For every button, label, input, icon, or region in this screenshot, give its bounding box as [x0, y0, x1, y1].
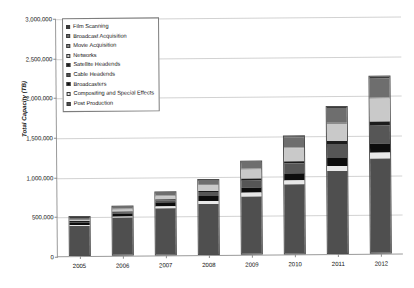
x-axis-tick-label: 2009: [245, 262, 258, 268]
legend-item-label: Post Production: [74, 100, 114, 106]
legend-item-label: Networks: [73, 53, 96, 59]
bar-segment[interactable]: [370, 125, 390, 143]
y-axis-tick-label: 2,500,000: [26, 56, 53, 62]
bar-column[interactable]: 2008: [194, 18, 222, 255]
x-axis-tick-mark: [252, 255, 253, 258]
bar-segment[interactable]: [285, 185, 306, 254]
bar-segment[interactable]: [370, 144, 390, 154]
x-axis-tick-mark: [79, 256, 80, 259]
bar-segment[interactable]: [370, 78, 390, 97]
bar-segment[interactable]: [371, 158, 392, 252]
y-axis-tick-mark: [55, 257, 58, 258]
bar-segment[interactable]: [370, 99, 390, 122]
legend-item-label: Satellite Headends: [73, 62, 120, 68]
y-axis-tick-label: 500,000: [32, 215, 54, 221]
stacked-bar[interactable]: [111, 205, 133, 255]
legend-swatch-icon: [66, 25, 70, 29]
x-axis-tick-mark: [209, 255, 210, 258]
legend-item[interactable]: Post Production: [67, 98, 155, 108]
stacked-bar[interactable]: [197, 179, 220, 256]
bar-segment[interactable]: [327, 124, 347, 141]
bar-segment[interactable]: [112, 218, 132, 255]
bar-segment[interactable]: [241, 170, 261, 179]
bar-segment[interactable]: [284, 164, 304, 174]
x-axis-tick-mark: [338, 254, 339, 257]
bar-segment[interactable]: [284, 148, 304, 161]
legend-item-label: Cable Headends: [73, 72, 115, 78]
legend-swatch-icon: [66, 44, 70, 48]
x-axis-tick-label: 2005: [73, 263, 86, 269]
y-axis-tick-label: 1,000,000: [27, 175, 54, 181]
legend-swatch-icon: [66, 34, 70, 38]
stacked-bar[interactable]: [283, 135, 306, 254]
legend-swatch-icon: [67, 82, 71, 86]
bar-segment[interactable]: [69, 226, 89, 255]
x-axis-tick-label: 2012: [375, 261, 388, 267]
x-axis-tick-label: 2010: [288, 261, 301, 267]
legend-item-label: Broadcast Acquisition: [73, 33, 127, 39]
bar-segment[interactable]: [241, 197, 261, 254]
bar-column[interactable]: 2010: [280, 17, 308, 254]
legend-item-label: Compositing and Special Effects: [74, 91, 154, 97]
x-axis-tick-label: 2007: [159, 262, 172, 268]
legend-swatch-icon: [67, 102, 71, 106]
bar-column[interactable]: 2011: [323, 17, 351, 254]
x-axis-tick-mark: [166, 255, 167, 258]
x-axis-tick-label: 2008: [202, 262, 215, 268]
bar-segment[interactable]: [155, 208, 175, 254]
y-axis-tick-label: 1,500,000: [26, 135, 53, 141]
legend-swatch-icon: [66, 54, 70, 58]
bar-segment[interactable]: [327, 108, 347, 122]
y-axis-tick-label: 3,000,000: [25, 16, 52, 22]
legend-swatch-icon: [67, 92, 71, 96]
bar-segment[interactable]: [327, 158, 347, 166]
x-axis-tick-label: 2011: [332, 261, 345, 267]
x-axis-tick-mark: [381, 254, 382, 257]
bar-segment[interactable]: [284, 137, 304, 147]
legend-swatch-icon: [66, 73, 70, 77]
stacked-bar[interactable]: [68, 216, 90, 256]
stacked-bar[interactable]: [326, 106, 349, 254]
bar-segment[interactable]: [328, 171, 349, 253]
stacked-bar[interactable]: [369, 76, 392, 254]
legend-swatch-icon: [66, 63, 70, 67]
legend-item-label: Broadcasters: [74, 81, 107, 87]
bar-segment[interactable]: [327, 144, 347, 158]
legend-item-label: Film Scanning: [73, 24, 108, 30]
x-axis-tick-label: 2006: [116, 263, 129, 269]
stacked-bar[interactable]: [154, 191, 177, 255]
chart-legend: Film ScanningBroadcast AcquisitionMovie …: [62, 17, 160, 112]
y-axis-tick-label: 2,000,000: [26, 96, 53, 102]
y-axis-title: Total Capacity (TB): [20, 49, 28, 169]
y-axis-tick-label: 0: [51, 254, 54, 260]
stacked-bar-chart: Total Capacity (TB) 0500,0001,000,0001,5…: [0, 0, 414, 288]
bar-column[interactable]: 2009: [237, 18, 265, 255]
bar-segment[interactable]: [198, 204, 218, 254]
x-axis-tick-mark: [295, 254, 296, 257]
bar-column[interactable]: 2012: [366, 17, 394, 254]
stacked-bar[interactable]: [240, 160, 263, 255]
legend-item-label: Movie Acquisition: [73, 43, 116, 49]
x-axis-tick-mark: [123, 256, 124, 259]
